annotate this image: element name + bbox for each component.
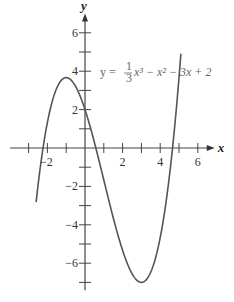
x-tick-label: 2 xyxy=(120,155,126,169)
x-tick-label: 6 xyxy=(195,155,201,169)
cubic-function-graph: −2246642−2−4−6xy y =13x³ − x² − 3x + 2 xyxy=(0,0,234,302)
equation-label: y =13x³ − x² − 3x + 2 xyxy=(100,59,211,85)
y-tick-label: −2 xyxy=(65,179,78,193)
y-tick-label: −4 xyxy=(65,218,78,232)
y-tick-label: 6 xyxy=(72,26,78,40)
equation-prefix: y = xyxy=(100,65,116,79)
x-axis-label: x xyxy=(217,140,225,155)
y-tick-label: −6 xyxy=(65,256,78,270)
x-tick-label: 4 xyxy=(157,155,163,169)
equation-rest: x³ − x² − 3x + 2 xyxy=(133,65,211,79)
y-tick-label: 2 xyxy=(72,103,78,117)
x-tick-label: −2 xyxy=(40,155,53,169)
axes xyxy=(10,14,215,291)
y-axis-label: y xyxy=(79,0,87,13)
tick-labels: −2246642−2−4−6xy xyxy=(40,0,225,270)
y-axis-arrow-icon xyxy=(82,14,88,22)
x-axis-arrow-icon xyxy=(207,145,215,151)
y-tick-label: 4 xyxy=(72,64,78,78)
fraction-denominator: 3 xyxy=(126,71,132,85)
